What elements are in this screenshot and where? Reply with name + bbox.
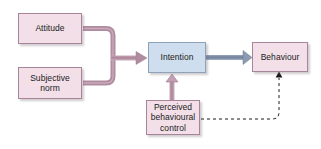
- node-attitude: Attitude: [18, 13, 82, 44]
- node-subjective-norm: Subjective norm: [18, 67, 82, 99]
- node-attitude-label: Attitude: [33, 23, 66, 34]
- edge-attitude-to-intention: [83, 29, 113, 59]
- edge-intention-to-behaviour: [206, 51, 252, 65]
- diagram-canvas: Attitude Subjective norm Intention Behav…: [0, 0, 321, 149]
- edge-trunk-to-intention-arrow: [111, 52, 147, 65]
- node-behaviour: Behaviour: [252, 42, 308, 72]
- node-intention-label: Intention: [158, 52, 195, 63]
- node-perceived-behavioural-control: Perceived behavioural control: [146, 100, 200, 135]
- node-subjective-norm-label: Subjective norm: [28, 73, 72, 94]
- edge-pbc-to-behaviour: [201, 72, 282, 120]
- node-intention: Intention: [148, 42, 206, 73]
- edge-pbc-to-intention: [166, 74, 178, 101]
- edge-subjective-norm-to-intention: [83, 58, 113, 83]
- node-behaviour-label: Behaviour: [259, 52, 302, 63]
- node-perceived-behavioural-control-label: Perceived behavioural control: [149, 102, 198, 134]
